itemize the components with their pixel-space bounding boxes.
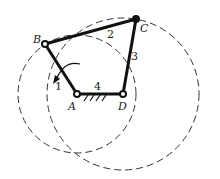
label-link-2: 2 (107, 28, 114, 41)
label-a: A (67, 100, 76, 113)
linkage-diagram: B C A D 1 2 3 4 (0, 0, 220, 179)
label-b: B (32, 33, 41, 46)
link-2 (45, 19, 136, 44)
joint-c (133, 16, 139, 22)
label-link-3: 3 (131, 50, 138, 63)
label-link-1: 1 (55, 80, 62, 93)
label-link-4: 4 (94, 80, 101, 93)
label-c: C (140, 22, 149, 35)
label-d: D (117, 100, 127, 113)
joint-d (120, 91, 126, 97)
joint-b (42, 41, 48, 47)
ground-hatching (84, 95, 106, 101)
joint-a (74, 91, 80, 97)
